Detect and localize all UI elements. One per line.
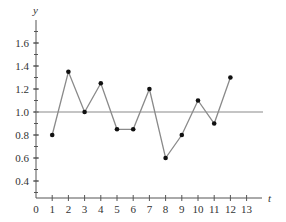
- data-point: [228, 75, 233, 80]
- data-point: [196, 98, 201, 103]
- data-point: [99, 81, 104, 86]
- x-tick-label: 1: [49, 203, 55, 215]
- data-point: [163, 156, 168, 161]
- data-point: [115, 127, 120, 132]
- data-point: [66, 69, 71, 74]
- y-tick-label: 0.8: [15, 129, 29, 141]
- series-line: [52, 72, 230, 158]
- data-point: [131, 127, 136, 132]
- y-tick-label: 1.4: [15, 60, 29, 72]
- x-tick-label: 8: [163, 203, 169, 215]
- data-point: [82, 110, 87, 115]
- data-point: [147, 87, 152, 92]
- y-tick-label: 0.6: [15, 152, 29, 164]
- x-tick-label: 9: [179, 203, 185, 215]
- y-axis-label: y: [32, 4, 38, 16]
- x-tick-label: 2: [66, 203, 72, 215]
- data-point: [50, 133, 55, 138]
- y-tick-label: 1.0: [15, 106, 29, 118]
- x-tick-label: 13: [241, 203, 253, 215]
- x-tick-label: 5: [114, 203, 120, 215]
- data-point: [180, 133, 185, 138]
- chart-svg: 0.40.60.81.01.21.41.6012345678910111213 …: [0, 0, 286, 222]
- x-tick-label: 4: [98, 203, 104, 215]
- data-point: [212, 121, 217, 126]
- axis-labels: y t: [32, 4, 272, 204]
- x-tick-label: 0: [33, 203, 39, 215]
- line-chart: 0.40.60.81.01.21.41.6012345678910111213 …: [0, 0, 286, 222]
- y-tick-label: 0.4: [15, 175, 29, 187]
- x-tick-label: 11: [209, 203, 220, 215]
- x-tick-label: 6: [130, 203, 136, 215]
- x-tick-label: 7: [147, 203, 153, 215]
- y-tick-label: 1.2: [15, 83, 29, 95]
- data-series: [50, 69, 233, 160]
- x-tick-label: 3: [82, 203, 88, 215]
- x-tick-label: 12: [225, 203, 236, 215]
- x-axis-label: t: [268, 192, 272, 204]
- x-tick-label: 10: [193, 203, 205, 215]
- y-tick-label: 1.6: [15, 37, 29, 49]
